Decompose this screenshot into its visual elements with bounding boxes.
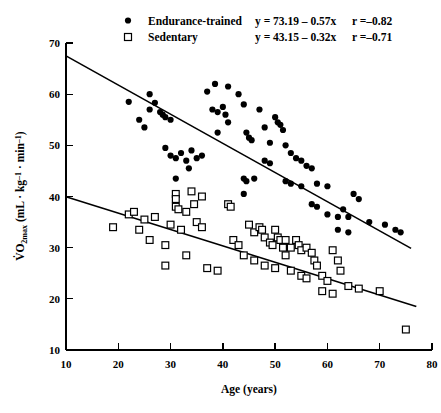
data-point xyxy=(376,288,383,295)
y-title-units-1: (mL · kg xyxy=(14,180,27,225)
y-title-exponent-1: –1 xyxy=(14,172,23,181)
data-point xyxy=(340,206,346,212)
data-point xyxy=(249,137,255,143)
y-title-exponent-2: –1 xyxy=(14,135,23,144)
data-point xyxy=(215,109,221,115)
y-title-subscript: 2max xyxy=(20,225,29,244)
legend-r-sedentary: r =–0.71 xyxy=(352,31,392,43)
data-point xyxy=(188,188,195,195)
x-tick-label-20: 20 xyxy=(113,358,125,370)
data-point xyxy=(324,278,331,285)
data-point xyxy=(324,211,330,217)
fit-line-endurance-trained xyxy=(66,56,411,248)
data-point xyxy=(199,152,205,158)
legend-r-endurance-trained: r =–0.82 xyxy=(352,15,392,27)
x-tick-label-80: 80 xyxy=(427,358,439,370)
data-point xyxy=(345,214,351,220)
data-point xyxy=(162,242,169,249)
axes-frame xyxy=(66,43,432,350)
data-point xyxy=(319,288,326,295)
data-point xyxy=(220,104,226,110)
data-point xyxy=(183,208,190,215)
legend-equation-sedentary: y = 43.15 – 0.32x xyxy=(255,31,337,44)
vo2max-age-scatter-figure: Endurance-trained y = 73.19 – 0.57x r =–… xyxy=(0,0,441,413)
data-point xyxy=(235,91,241,97)
x-axis-ticks xyxy=(66,343,432,350)
data-point xyxy=(280,244,287,251)
y-axis-tick-labels: 10203040506070 xyxy=(49,37,61,356)
x-tick-label-40: 40 xyxy=(217,358,229,370)
data-point xyxy=(136,117,142,123)
y-axis-title: V̇O2max (mL · kg–1 · min–1) xyxy=(13,131,28,261)
data-point xyxy=(162,145,168,151)
data-point xyxy=(243,178,249,184)
data-point xyxy=(350,191,356,197)
svg-text:V̇O2max (mL · kg–1 · min–1): V̇O2max (mL · kg–1 · min–1) xyxy=(13,131,28,261)
data-point xyxy=(175,206,182,213)
data-point xyxy=(225,119,231,125)
data-point xyxy=(167,117,173,123)
data-point xyxy=(324,183,330,189)
data-point xyxy=(152,100,158,106)
y-tick-label-40: 40 xyxy=(49,191,61,203)
data-point xyxy=(251,257,258,264)
data-point xyxy=(204,265,211,272)
data-point xyxy=(178,150,184,156)
data-point xyxy=(199,224,206,231)
data-point xyxy=(136,226,143,233)
data-point xyxy=(222,112,228,118)
data-point xyxy=(212,81,218,87)
data-point xyxy=(356,196,362,202)
data-point xyxy=(267,160,273,166)
x-tick-label-50: 50 xyxy=(270,358,282,370)
data-point xyxy=(355,285,362,292)
data-point xyxy=(334,257,341,264)
data-point xyxy=(272,265,279,272)
data-point xyxy=(287,267,294,274)
data-point xyxy=(235,242,242,249)
data-point xyxy=(204,89,210,95)
data-point xyxy=(345,229,351,235)
data-point xyxy=(329,247,336,254)
data-point xyxy=(269,242,276,249)
data-point xyxy=(314,181,320,187)
data-point xyxy=(251,175,257,181)
y-tick-label-60: 60 xyxy=(49,88,61,100)
data-point xyxy=(172,196,179,203)
data-point xyxy=(227,203,234,210)
data-point xyxy=(288,150,294,156)
data-point xyxy=(303,275,310,282)
data-point xyxy=(335,214,341,220)
data-point xyxy=(282,252,289,259)
y-tick-label-70: 70 xyxy=(49,37,61,49)
legend-marker-endurance-trained xyxy=(125,17,131,23)
data-point xyxy=(240,252,247,259)
data-point xyxy=(267,140,273,146)
y-tick-label-30: 30 xyxy=(49,242,61,254)
legend-label-sedentary: Sedentary xyxy=(148,31,198,44)
data-point xyxy=(146,237,153,244)
data-point xyxy=(167,221,174,228)
data-point xyxy=(314,262,321,269)
y-tick-label-20: 20 xyxy=(49,293,61,305)
x-tick-label-60: 60 xyxy=(322,358,334,370)
data-point xyxy=(162,262,169,269)
data-point xyxy=(402,326,409,333)
legend-label-endurance-trained: Endurance-trained xyxy=(148,15,243,27)
plot-canvas: Endurance-trained y = 73.19 – 0.57x r =–… xyxy=(0,0,441,413)
data-point xyxy=(280,127,286,133)
data-point xyxy=(110,224,117,231)
x-tick-label-30: 30 xyxy=(165,358,177,370)
data-point xyxy=(366,219,372,225)
data-point xyxy=(126,99,132,105)
data-point xyxy=(309,165,315,171)
data-point xyxy=(186,165,192,171)
data-point xyxy=(147,91,153,97)
data-point xyxy=(288,181,294,187)
x-axis-tick-labels: 1020304050607080 xyxy=(61,358,439,370)
y-title-close-paren: ) xyxy=(14,131,27,135)
legend-marker-sedentary xyxy=(125,34,132,41)
data-point xyxy=(183,252,190,259)
data-point xyxy=(241,101,247,107)
data-point xyxy=(215,129,221,135)
